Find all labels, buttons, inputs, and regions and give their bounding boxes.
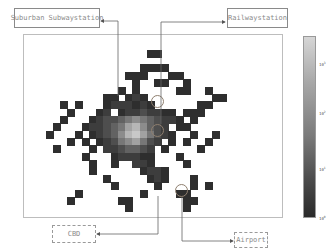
colorbar-tick: 103 [319,61,326,67]
colorbar [303,36,316,218]
colorbar-tick: 100 [319,215,326,221]
railway-station-label: Railwaystation [227,8,288,28]
airport-label: Airport [234,232,268,248]
heatmap-figure: Suburban Subwaystation Railwaystation CB… [0,0,336,249]
subway-station-label: Suburban Subwaystation [14,8,100,28]
cbd-label: CBD [52,225,96,243]
colorbar-tick: 101 [319,166,326,172]
colorbar-tick: 102 [319,110,326,116]
annotation-arrows [0,0,336,249]
